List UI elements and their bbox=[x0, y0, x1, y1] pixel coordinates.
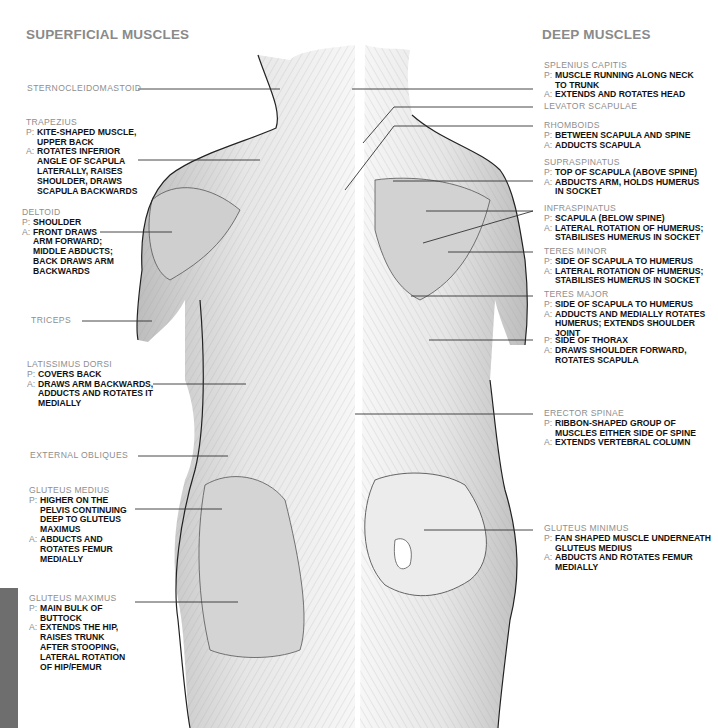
position-prefix: P: bbox=[544, 534, 555, 554]
position-prefix: P: bbox=[29, 496, 40, 535]
muscle-name: TRICEPS bbox=[31, 316, 71, 326]
label-deltoid: DELTOID P:SHOULDER A:FRONT DRAWS ARM FOR… bbox=[22, 208, 114, 277]
position-prefix: P: bbox=[29, 604, 40, 624]
position-text: MAIN BULK OF BUTTOCK bbox=[40, 604, 103, 624]
action-prefix: A: bbox=[544, 90, 555, 100]
action-text: ABDUCTS AND ROTATES FEMUR MEDIALLY bbox=[40, 535, 113, 564]
position-prefix: P: bbox=[26, 128, 37, 148]
label-rhomboids: RHOMBOIDS P:BETWEEN SCAPULA AND SPINE A:… bbox=[544, 121, 690, 150]
label-side-of-thorax: P:SIDE OF THORAX A:DRAWS SHOULDER FORWAR… bbox=[544, 336, 687, 365]
position-text: HIGHER ON THE PELVIS CONTINUING DEEP TO … bbox=[40, 496, 127, 535]
action-prefix: A: bbox=[29, 535, 40, 564]
action-prefix: A: bbox=[544, 346, 555, 366]
label-levator-scapulae: LEVATOR SCAPULAE bbox=[544, 102, 637, 112]
action-text: LATERAL ROTATION OF HUMERUS; STABILISES … bbox=[555, 224, 703, 244]
action-prefix: A: bbox=[26, 147, 37, 196]
action-text: FRONT DRAWS ARM FORWARD; MIDDLE ABDUCTS;… bbox=[33, 228, 114, 277]
position-prefix: P: bbox=[544, 71, 555, 91]
label-trapezius: TRAPEZIUS P:KITE-SHAPED MUSCLE, UPPER BA… bbox=[26, 118, 137, 196]
deep-muscles-heading: DEEP MUSCLES bbox=[542, 27, 651, 42]
action-prefix: A: bbox=[544, 178, 555, 198]
action-text: EXTENDS AND ROTATES HEAD bbox=[555, 90, 685, 100]
muscle-name: EXTERNAL OBLIQUES bbox=[30, 451, 128, 461]
action-text: EXTENDS THE HIP, RAISES TRUNK AFTER STOO… bbox=[40, 623, 125, 672]
label-splenius-capitis: SPLENIUS CAPITIS P:MUSCLE RUNNING ALONG … bbox=[544, 61, 694, 100]
position-prefix: P: bbox=[544, 419, 555, 439]
label-gluteus-minimus: GLUTEUS MINIMUS P:FAN SHAPED MUSCLE UNDE… bbox=[544, 524, 711, 573]
position-text: MUSCLE RUNNING ALONG NECK TO TRUNK bbox=[555, 71, 694, 91]
label-infraspinatus: INFRASPINATUS P:SCAPULA (BELOW SPINE) A:… bbox=[544, 204, 703, 243]
action-prefix: A: bbox=[544, 224, 555, 244]
action-prefix: A: bbox=[27, 380, 38, 409]
action-prefix: A: bbox=[544, 553, 555, 573]
label-external-obliques: EXTERNAL OBLIQUES bbox=[30, 451, 128, 461]
label-gluteus-medius: GLUTEUS MEDIUS P:HIGHER ON THE PELVIS CO… bbox=[29, 486, 127, 564]
muscle-name: LEVATOR SCAPULAE bbox=[544, 102, 637, 112]
action-text: ROTATES INFERIOR ANGLE OF SCAPULA LATERA… bbox=[37, 147, 137, 196]
label-teres-major: TERES MAJOR P:SIDE OF SCAPULA TO HUMERUS… bbox=[544, 290, 718, 339]
action-prefix: A: bbox=[22, 228, 33, 277]
action-prefix: A: bbox=[544, 267, 555, 287]
position-text: RIBBON-SHAPED GROUP OF MUSCLES EITHER SI… bbox=[555, 419, 696, 439]
action-text: LATERAL ROTATION OF HUMERUS; STABILISES … bbox=[555, 267, 703, 287]
position-text: KITE-SHAPED MUSCLE, UPPER BACK bbox=[37, 128, 136, 148]
action-text: ABDUCTS AND ROTATES FEMUR MEDIALLY bbox=[555, 553, 693, 573]
action-text: DRAWS ARM BACKWARDS, ADDUCTS AND ROTATES… bbox=[38, 380, 153, 409]
action-prefix: A: bbox=[544, 438, 555, 448]
superficial-half bbox=[137, 45, 355, 728]
action-prefix: A: bbox=[544, 141, 555, 151]
muscle-name: STERNOCLEIDOMASTOID bbox=[27, 84, 141, 94]
label-latissimus-dorsi: LATISSIMUS DORSI P:COVERS BACK A:DRAWS A… bbox=[27, 360, 153, 409]
label-teres-minor: TERES MINOR P:SIDE OF SCAPULA TO HUMERUS… bbox=[544, 247, 703, 286]
action-prefix: A: bbox=[29, 623, 40, 672]
superficial-muscles-heading: SUPERFICIAL MUSCLES bbox=[26, 27, 189, 42]
action-text: EXTENDS VERTEBRAL COLUMN bbox=[555, 438, 690, 448]
deep-half bbox=[360, 45, 527, 728]
position-text: FAN SHAPED MUSCLE UNDERNEATH GLUTEUS MED… bbox=[555, 534, 711, 554]
action-text: ABDUCTS ARM, HOLDS HUMERUS IN SOCKET bbox=[555, 178, 699, 198]
label-erector-spinae: ERECTOR SPINAE P:RIBBON-SHAPED GROUP OF … bbox=[544, 409, 696, 448]
action-text: DRAWS SHOULDER FORWARD, ROTATES SCAPULA bbox=[555, 346, 687, 366]
label-gluteus-maximus: GLUTEUS MAXIMUS P:MAIN BULK OF BUTTOCK A… bbox=[29, 594, 125, 672]
action-text: ADDUCTS SCAPULA bbox=[555, 141, 641, 151]
label-triceps: TRICEPS bbox=[31, 316, 71, 326]
label-sternocleidomastoid: STERNOCLEIDOMASTOID bbox=[27, 84, 141, 94]
label-supraspinatus: SUPRASPINATUS P:TOP OF SCAPULA (ABOVE SP… bbox=[544, 158, 699, 197]
page-edge-tab bbox=[0, 588, 18, 728]
